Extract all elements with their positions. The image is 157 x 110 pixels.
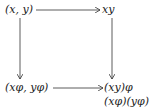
node-bottom-right-line1: (xy)φ [104, 82, 133, 94]
node-bottom-right-line2: (xφ)(yφ) [104, 96, 149, 108]
node-top-right: xy [102, 4, 114, 16]
node-top-left: (x, y) [5, 4, 33, 16]
node-bottom-left: (xφ, yφ) [5, 82, 48, 94]
